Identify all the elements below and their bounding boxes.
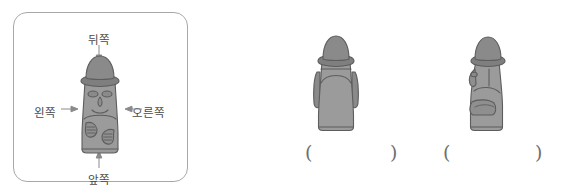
direction-reference-box: 뒤쪽 앞쪽 왼쪽 오른쪽 bbox=[13, 12, 188, 182]
answer-blank-1-close[interactable]: ) bbox=[390, 141, 397, 163]
statue-back-view bbox=[308, 31, 364, 136]
answer-blank-2-close[interactable]: ) bbox=[535, 141, 542, 163]
statue-front-view bbox=[73, 51, 127, 159]
side-hat-crown bbox=[475, 37, 501, 61]
back-hat-crown bbox=[323, 36, 349, 61]
statue-eye-right bbox=[102, 91, 112, 97]
side-arm bbox=[470, 100, 496, 115]
side-face-profile bbox=[469, 69, 476, 87]
illustration-canvas: 뒤쪽 앞쪽 왼쪽 오른쪽 bbox=[0, 0, 561, 196]
statue-eye-left bbox=[88, 91, 98, 97]
back-body bbox=[319, 61, 354, 131]
statue-hat-crown bbox=[86, 56, 114, 80]
side-eye bbox=[471, 72, 477, 76]
statue-side-view bbox=[462, 31, 514, 136]
answer-blank-1-open[interactable]: ( bbox=[305, 141, 312, 163]
statue-nose bbox=[98, 97, 102, 107]
answer-blank-2-open[interactable]: ( bbox=[443, 141, 450, 163]
